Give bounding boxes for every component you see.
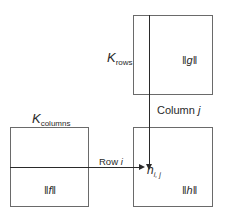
norm-f-label: ‖f‖ xyxy=(44,185,56,196)
row-i-label: Row i xyxy=(99,157,123,167)
k-columns-label: Kcolumns xyxy=(32,112,70,128)
matrix-g-box xyxy=(133,15,213,95)
column-j-label: Column j xyxy=(157,105,200,116)
row-i-line xyxy=(10,167,141,168)
row-arrowhead-icon xyxy=(139,164,145,170)
h-ij-label: hi, j xyxy=(147,164,161,178)
column-j-line xyxy=(149,15,150,166)
k-rows-label: Krows xyxy=(107,51,133,67)
matrix-h-box xyxy=(133,127,213,207)
norm-g-label: ‖g‖ xyxy=(182,55,197,66)
norm-h-label: ‖h‖ xyxy=(182,185,197,196)
